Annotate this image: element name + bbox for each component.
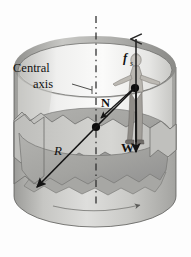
normal-force-label: N: [101, 96, 110, 110]
rotor-diagram-svg: Central axis f s N W R: [0, 0, 191, 257]
weight-force-label: W: [121, 140, 134, 155]
person-right-foot: [136, 140, 144, 144]
rotor-ride-figure: Central axis f s N W R: [0, 0, 191, 257]
friction-force-subscript: s: [130, 59, 133, 68]
central-axis-label-line1: Central: [13, 61, 50, 75]
radius-label: R: [53, 143, 62, 158]
person-right-leg: [137, 92, 143, 140]
central-axis-label-line2: axis: [33, 77, 53, 91]
